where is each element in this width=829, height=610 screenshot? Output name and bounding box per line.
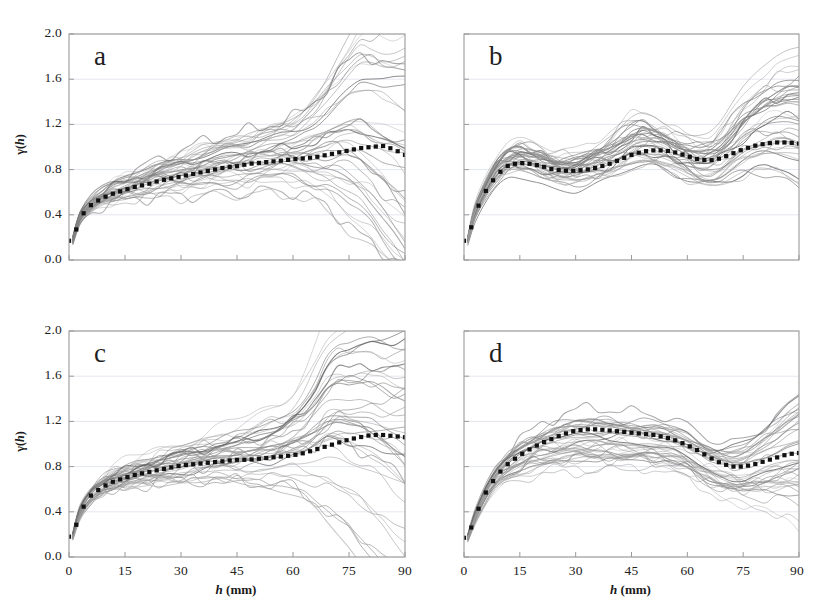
mean-marker: [301, 451, 305, 455]
mean-marker: [673, 438, 677, 442]
plot-area-b: [463, 33, 800, 261]
mean-marker: [337, 150, 341, 154]
mean-marker: [542, 165, 546, 169]
mean-marker: [542, 440, 546, 444]
x-tick-label: 0: [53, 563, 85, 579]
mean-marker: [535, 443, 539, 447]
mean-marker: [600, 428, 604, 432]
mean-marker: [578, 428, 582, 432]
x-tick-label: 60: [277, 563, 309, 579]
mean-marker: [782, 453, 786, 457]
mean-marker: [717, 460, 721, 464]
y-axis-title: γ(h): [13, 115, 28, 175]
mean-marker: [659, 148, 663, 152]
y-axis-h: h: [13, 435, 27, 442]
mean-marker: [89, 203, 93, 207]
mean-marker: [593, 166, 597, 170]
mean-marker: [235, 458, 239, 462]
mean-marker: [359, 146, 363, 150]
mean-marker: [746, 464, 750, 468]
mean-marker: [571, 169, 575, 173]
mean-marker: [228, 458, 232, 462]
y-tick-label: 2.0: [24, 322, 62, 338]
mean-marker: [498, 170, 502, 174]
mean-marker: [578, 168, 582, 172]
mean-marker: [731, 465, 735, 469]
mean-marker: [301, 156, 305, 160]
x-tick-label: 30: [165, 563, 197, 579]
mean-marker: [271, 455, 275, 459]
mean-marker: [213, 460, 217, 464]
mean-marker: [155, 179, 159, 183]
mean-marker: [111, 192, 115, 196]
mean-marker: [381, 144, 385, 148]
mean-marker: [118, 189, 122, 193]
mean-marker: [396, 434, 400, 438]
mean-marker: [680, 152, 684, 156]
mean-marker: [695, 157, 699, 161]
mean-marker: [344, 149, 348, 153]
plot-area-c: [68, 330, 406, 558]
mean-marker: [753, 462, 757, 466]
mean-marker: [337, 440, 341, 444]
mean-marker: [250, 457, 254, 461]
y-tick-label: 1.6: [24, 367, 62, 383]
mean-marker: [206, 461, 210, 465]
mean-marker: [746, 146, 750, 150]
mean-marker: [760, 142, 764, 146]
mean-marker: [155, 468, 159, 472]
mean-marker: [520, 452, 524, 456]
panel-c: c: [68, 330, 404, 556]
mean-marker: [520, 161, 524, 165]
mean-marker: [476, 507, 480, 511]
y-tick-label: 0.8: [24, 161, 62, 177]
mean-marker: [103, 195, 107, 199]
mean-marker: [257, 457, 261, 461]
mean-marker: [206, 169, 210, 173]
mean-marker: [615, 159, 619, 163]
mean-marker: [388, 146, 392, 150]
mean-marker: [352, 147, 356, 151]
mean-marker: [608, 162, 612, 166]
y-tick-label: 1.2: [24, 412, 62, 428]
x-axis-units: (mm): [223, 582, 257, 597]
mean-marker: [271, 159, 275, 163]
mean-marker: [695, 448, 699, 452]
x-tick-label: 45: [616, 563, 648, 579]
mean-marker: [666, 436, 670, 440]
y-tick-label: 0.0: [24, 548, 62, 564]
mean-marker: [74, 227, 78, 231]
mean-marker: [506, 462, 510, 466]
mean-marker: [469, 225, 473, 229]
mean-marker: [717, 157, 721, 161]
mean-marker: [651, 148, 655, 152]
mean-marker: [191, 462, 195, 466]
mean-marker: [688, 155, 692, 159]
mean-marker: [680, 441, 684, 445]
mean-marker: [491, 178, 495, 182]
mean-marker: [608, 428, 612, 432]
mean-marker: [323, 153, 327, 157]
mean-marker: [147, 470, 151, 474]
mean-marker: [659, 434, 663, 438]
x-axis-h: h: [216, 582, 223, 597]
mean-marker: [352, 436, 356, 440]
mean-marker: [323, 445, 327, 449]
mean-marker: [535, 163, 539, 167]
mean-marker: [125, 187, 129, 191]
mean-marker: [133, 473, 137, 477]
mean-marker: [264, 456, 268, 460]
x-tick-label: 75: [333, 563, 365, 579]
mean-marker: [775, 140, 779, 144]
mean-marker: [96, 198, 100, 202]
mean-marker: [96, 488, 100, 492]
mean-marker: [242, 458, 246, 462]
mean-marker: [140, 471, 144, 475]
mean-marker: [702, 158, 706, 162]
mean-marker: [396, 149, 400, 153]
mean-marker: [498, 469, 502, 473]
mean-marker: [293, 157, 297, 161]
mean-marker: [731, 151, 735, 155]
mean-marker: [250, 162, 254, 166]
mean-marker: [74, 523, 78, 527]
